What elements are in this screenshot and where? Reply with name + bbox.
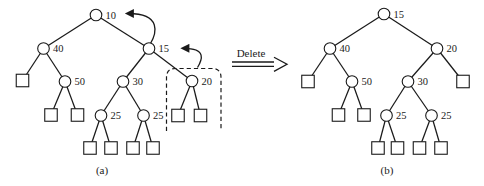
tree-edge xyxy=(330,14,384,49)
node-key-label: 25 xyxy=(396,110,407,121)
external-leaf-square xyxy=(332,109,345,122)
tree-node-circle xyxy=(95,110,107,122)
tree-edge xyxy=(44,15,97,49)
node-key-label: 25 xyxy=(441,110,452,121)
external-leaf-square xyxy=(84,142,97,155)
external-leaf-square xyxy=(457,75,470,88)
node-key-label: 25 xyxy=(153,110,164,121)
external-leaf-square xyxy=(194,109,207,122)
rotation-arrow-20-to-15 xyxy=(184,48,201,67)
external-leaf-square xyxy=(71,109,84,122)
tree-node-circle xyxy=(324,43,336,55)
delete-operation-label: Delete xyxy=(221,47,281,59)
tree-node-circle xyxy=(117,76,129,88)
caption-subfigure-a: (a) xyxy=(82,164,122,176)
node-key-label: 20 xyxy=(202,76,213,87)
tree-node-circle xyxy=(38,43,50,55)
delete-arrow-head xyxy=(274,57,287,71)
tree-node-circle xyxy=(138,110,150,122)
external-leaf-square xyxy=(372,142,385,155)
external-leaf-square xyxy=(127,142,140,155)
node-key-label: 50 xyxy=(75,76,86,87)
node-key-label: 25 xyxy=(111,110,122,121)
external-leaf-square xyxy=(45,109,58,122)
tree-node-circle xyxy=(378,8,390,20)
tree-node-circle xyxy=(90,9,102,21)
node-key-label: 15 xyxy=(394,9,405,20)
node-key-label: 30 xyxy=(133,76,144,87)
node-key-label: 50 xyxy=(362,76,373,87)
external-leaf-square xyxy=(391,142,404,155)
tree-node-circle xyxy=(426,110,438,122)
external-leaf-square xyxy=(413,142,426,155)
external-leaf-square xyxy=(302,75,315,88)
external-leaf-square xyxy=(16,74,29,87)
tree-node-circle xyxy=(59,76,71,88)
tree-after-delete: 15402050302525 xyxy=(302,8,470,154)
delete-arrow xyxy=(232,57,287,71)
external-leaf-square xyxy=(147,142,160,155)
external-leaf-square xyxy=(358,109,371,122)
tree-edge xyxy=(96,15,149,49)
node-key-label: 30 xyxy=(418,76,429,87)
node-key-label: 20 xyxy=(447,43,458,54)
tree-before-delete: 1040155030202525 xyxy=(16,9,221,154)
node-key-label: 40 xyxy=(340,43,351,54)
node-key-label: 10 xyxy=(106,10,117,21)
node-key-label: 40 xyxy=(53,43,64,54)
tree-node-circle xyxy=(186,75,198,87)
tree-edge xyxy=(384,14,437,49)
tree-edge xyxy=(149,49,192,82)
external-leaf-square xyxy=(435,142,448,155)
caption-subfigure-b: (b) xyxy=(367,164,407,176)
tree-node-circle xyxy=(143,43,155,55)
binary-tree-delete-figure: 104015503020252515402050302525 Delete (a… xyxy=(0,0,484,186)
tree-node-circle xyxy=(346,76,358,88)
tree-node-circle xyxy=(381,110,393,122)
tree-node-circle xyxy=(431,43,443,55)
node-key-label: 15 xyxy=(159,43,170,54)
external-leaf-square xyxy=(105,142,118,155)
tree-node-circle xyxy=(402,76,414,88)
rotation-arrow-15-to-10 xyxy=(129,14,155,44)
tree-diagram-canvas: 104015503020252515402050302525 xyxy=(0,0,484,186)
external-leaf-square xyxy=(172,109,185,122)
